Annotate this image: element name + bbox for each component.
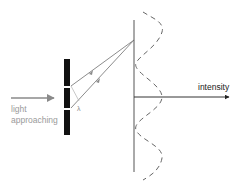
path-difference-marker bbox=[71, 86, 79, 101]
double-slit-diagram: λ intensity light approaching bbox=[0, 0, 238, 192]
barrier-middle-segment bbox=[64, 88, 70, 108]
light-paths bbox=[71, 40, 134, 108]
beam-lower-slit bbox=[71, 40, 134, 108]
double-slit-barrier bbox=[64, 59, 70, 135]
incoming-light-label-line2: approaching bbox=[11, 115, 58, 125]
beam-upper-slit bbox=[71, 40, 134, 86]
path-difference-label: λ bbox=[77, 105, 81, 112]
intensity-axis-label: intensity bbox=[198, 82, 230, 92]
barrier-bottom-segment bbox=[64, 110, 70, 135]
barrier-top-segment bbox=[64, 59, 70, 86]
incoming-light-label-line1: light bbox=[11, 104, 27, 114]
intensity-curve bbox=[136, 12, 163, 180]
